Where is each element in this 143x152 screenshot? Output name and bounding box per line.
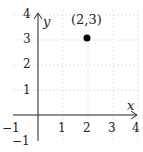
x-tick-label: 2 <box>83 121 91 135</box>
y-axis <box>34 13 42 141</box>
x-axis-label: x <box>127 98 135 113</box>
data-point <box>84 35 91 42</box>
x-axis <box>13 111 137 119</box>
x-tick-label: 3 <box>108 121 116 135</box>
x-tick-label: 1 <box>58 121 66 135</box>
grid <box>13 10 140 140</box>
y-tick-label: 4 <box>23 7 31 21</box>
y-tick-label: 1 <box>23 83 31 97</box>
coordinate-plane: x y −1 1 2 3 4 −1 1 2 3 4 (2,3) <box>0 0 143 152</box>
point-annotation: (2,3) <box>71 12 102 27</box>
y-tick-label: −1 <box>12 134 30 148</box>
y-tick-label: 3 <box>23 32 31 46</box>
y-tick-label: 2 <box>23 57 31 71</box>
y-axis-label: y <box>42 14 51 29</box>
x-tick-label: 4 <box>132 121 140 135</box>
x-tick-label: −1 <box>2 121 20 135</box>
